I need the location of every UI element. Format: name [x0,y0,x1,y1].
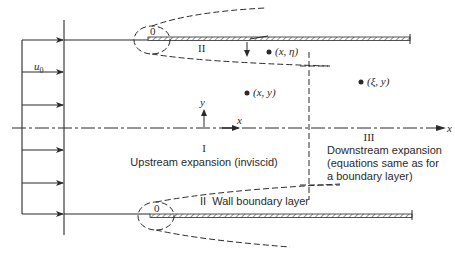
bl-envelope-top-upper [152,8,265,26]
region-II-bottom-label: II Wall boundary layer [200,195,309,207]
region-II-top-label: II [198,42,206,54]
region-III-line3: a boundary layer) [327,170,413,182]
point-x-y-label: (x, y) [253,86,276,99]
region-III-line1: Downstream expansion [327,144,442,156]
bl-envelope-top-lower [152,54,328,66]
region-III-label: III [364,131,375,143]
bottom-plate [150,210,412,220]
top-plate [148,34,410,44]
centerline-arrow-icon [436,125,446,131]
bl-envelope-bottom-lower [156,230,290,247]
leading-edge-label-bottom: 0 [154,202,160,214]
centerline-x-label: x [446,122,452,134]
local-x-label: x [236,114,242,126]
point-x-eta-label: (x, η) [275,45,299,58]
local-y-label: y [199,96,205,108]
point-x-y [245,91,250,96]
flow-diagram: u0 x 0 0 II (x, η) (x, y) [0,0,455,260]
y-axis-arrow-icon [201,109,207,116]
arrow-down-icon [244,50,250,57]
point-xi-y-label: (ξ, y) [367,75,390,88]
region-I-description: Upstream expansion (inviscid) [130,156,277,168]
region-III-line2: (equations same as for [327,157,439,169]
inflow-velocity-label: u0 [34,60,44,75]
region-I-label: I [202,142,206,154]
point-x-eta [267,50,272,55]
leading-edge-label-top: 0 [150,25,156,37]
point-xi-y [359,80,364,85]
